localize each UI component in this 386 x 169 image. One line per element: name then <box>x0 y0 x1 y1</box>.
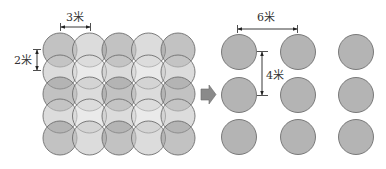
dense-circle-grid <box>43 33 195 155</box>
tree-circle <box>161 121 195 155</box>
tree-circle <box>73 121 107 155</box>
tree-circle <box>339 35 374 70</box>
sparse-circle-grid <box>222 35 374 155</box>
tree-circle <box>222 120 257 155</box>
label-6m: 6米 <box>257 11 275 24</box>
tree-circle <box>281 78 316 113</box>
tree-circle <box>222 35 257 70</box>
diagram-canvas: 3米 2米 6米 4米 <box>0 0 386 169</box>
label-2m: 2米 <box>14 54 32 67</box>
tree-circle <box>339 120 374 155</box>
tree-spacing-diagram: 3米 2米 6米 4米 <box>0 0 386 169</box>
dimension-2m: 2米 <box>14 50 41 71</box>
tree-circle <box>339 78 374 113</box>
transform-arrow-icon <box>201 85 216 104</box>
tree-circle <box>102 121 136 155</box>
tree-circle <box>132 121 166 155</box>
tree-circle <box>222 78 257 113</box>
label-4m: 4米 <box>266 69 284 82</box>
dimension-4m: 4米 <box>257 52 284 96</box>
label-3m: 3米 <box>66 11 84 24</box>
tree-circle <box>281 35 316 70</box>
tree-circle <box>281 120 316 155</box>
dimension-6m: 6米 <box>238 11 298 33</box>
dimension-3m: 3米 <box>61 11 91 31</box>
tree-circle <box>43 121 77 155</box>
